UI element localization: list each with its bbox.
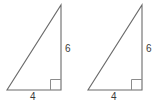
triangles-svg: [0, 0, 162, 106]
right-triangle-height-label: 6: [146, 44, 152, 54]
right-triangle-outline: [88, 5, 142, 90]
figure-canvas: 4 6 4 6: [0, 0, 162, 106]
left-right-angle-icon: [51, 80, 62, 91]
left-triangle-base-label: 4: [30, 92, 36, 102]
right-right-angle-icon: [132, 80, 143, 91]
left-triangle-height-label: 6: [65, 44, 71, 54]
left-triangle-outline: [7, 5, 61, 90]
right-triangle-base-label: 4: [111, 92, 117, 102]
